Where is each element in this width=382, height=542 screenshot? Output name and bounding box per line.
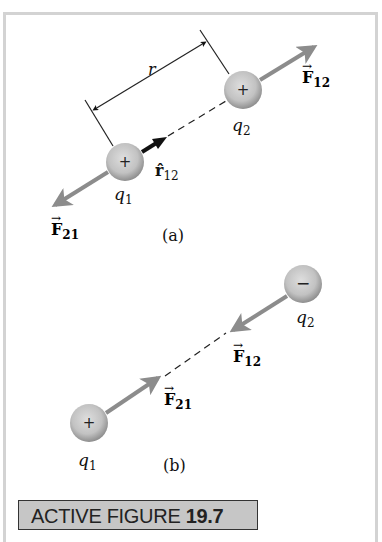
charge-symbol: q — [114, 184, 125, 204]
charge-symbol: q — [232, 115, 243, 135]
figure-label: ACTIVE FIGURE 19.7 — [18, 500, 258, 530]
force-f12-arrow — [233, 296, 287, 330]
force-f21-arrow — [55, 172, 108, 205]
charge-subscript: 2 — [307, 316, 315, 330]
force-f21-label: →F21 — [164, 390, 192, 412]
panel-b-caption: (b) — [163, 458, 186, 474]
plus-sign-icon: + — [119, 153, 132, 171]
charge-symbol: q — [78, 450, 89, 470]
separation-dashed-line — [168, 101, 226, 136]
force-f12-label: →F12 — [233, 347, 261, 369]
charge-subscript: 2 — [243, 124, 251, 138]
force-f21-arrow — [106, 378, 158, 413]
force-subscript: 21 — [175, 398, 192, 412]
figure-label-prefix: ACTIVE FIGURE — [31, 505, 180, 527]
vector-arrow-icon: → — [302, 59, 312, 73]
plus-sign-icon: + — [237, 81, 250, 99]
vector-arrow-icon: → — [51, 211, 61, 225]
force-f21-label: →F21 — [51, 220, 79, 242]
separation-dashed-line — [165, 333, 226, 376]
charge-q2-label: q2 — [296, 309, 315, 329]
plus-sign-icon: + — [83, 414, 96, 432]
vector-arrow-icon: → — [233, 338, 243, 352]
extension-line-right — [200, 30, 229, 74]
charge-q1-label: q1 — [78, 452, 97, 472]
figure-label-number: 19.7 — [186, 505, 224, 527]
charge-subscript: 1 — [125, 193, 133, 207]
charge-subscript: 1 — [89, 459, 97, 473]
panel-a-caption: (a) — [162, 228, 184, 244]
force-f12-label: →F12 — [302, 68, 330, 90]
panel-b: + − — [70, 265, 322, 442]
vector-arrow-icon: → — [164, 381, 174, 395]
force-subscript: 21 — [62, 228, 79, 242]
charge-q1-label: q1 — [114, 186, 133, 206]
charge-q2-label: q2 — [232, 117, 251, 137]
minus-sign-icon: − — [296, 273, 310, 293]
force-subscript: 12 — [244, 355, 261, 369]
unit-vector-label: r̂12 — [155, 163, 179, 182]
charge-symbol: q — [296, 307, 307, 327]
force-subscript: 12 — [313, 76, 330, 90]
unit-vector-subscript: 12 — [163, 169, 178, 183]
panel-a: + + — [55, 30, 314, 205]
distance-label: r — [148, 62, 156, 78]
